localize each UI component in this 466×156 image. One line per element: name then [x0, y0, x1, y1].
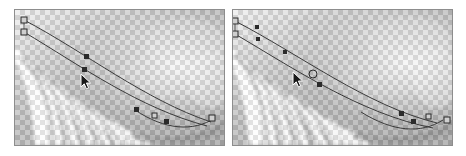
- handle-node-lower-right: [164, 119, 169, 124]
- handle-node-top-lower: [256, 37, 260, 41]
- handle-anchor-start-lower: [21, 29, 27, 35]
- handle-anchor-start-upper: [21, 17, 27, 23]
- inner-curve: [24, 32, 207, 126]
- handle-anchor-start-lower: [232, 31, 238, 37]
- path-overlay-right[interactable]: [233, 10, 452, 145]
- handle-anchor-start-upper: [232, 18, 238, 24]
- handle-node-mid-upper: [283, 50, 287, 54]
- handle-anchor-end: [209, 115, 215, 121]
- handle-node-mid-lower: [82, 67, 87, 72]
- outer-curve: [24, 20, 211, 122]
- path-handles: [21, 17, 215, 124]
- outer-curve: [235, 21, 437, 123]
- handle-node-mid-ring: [309, 70, 317, 78]
- figure-title: Curve path editing before and after comp…: [0, 21, 1, 22]
- handle-node-lower-right: [426, 114, 431, 119]
- handle-node-lower-mid: [411, 119, 416, 124]
- handle-node-lower-left: [134, 107, 139, 112]
- path-handles: [232, 18, 450, 124]
- handle-node-mid-upper: [84, 54, 89, 59]
- image-panel-right[interactable]: [232, 9, 453, 146]
- handle-anchor-end: [444, 117, 450, 123]
- handle-node-lower-left: [399, 111, 404, 116]
- handle-node-top-upper: [255, 25, 259, 29]
- image-panel-left[interactable]: [14, 9, 225, 146]
- handle-node-lower-mid: [152, 113, 157, 118]
- figure-container: Curve path editing before and after comp…: [0, 0, 466, 156]
- path-overlay-left[interactable]: [15, 10, 224, 145]
- handle-node-mid-lower: [317, 82, 322, 87]
